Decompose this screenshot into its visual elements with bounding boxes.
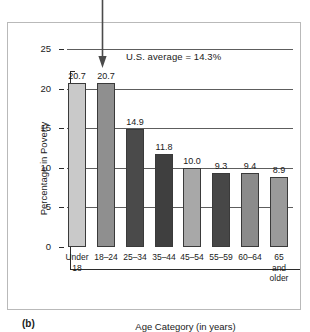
x-axis-category-label: Under 18 [61,252,93,273]
x-axis-category-label: 55–59 [205,252,237,263]
y-axis-tick [59,247,64,248]
bar [270,177,288,247]
bar [68,83,86,247]
x-axis-category-label: 25–34 [119,252,151,263]
bar-value-label: 9.3 [207,161,235,171]
bar-value-label: 14.9 [121,117,149,127]
bar [126,129,144,247]
y-axis-tick-label: 25 [21,43,51,54]
y-axis-tick-label: 5 [21,201,51,212]
bar-value-label: 20.7 [63,71,91,81]
y-axis-tick [59,128,64,129]
x-axis-category-label: 65 and older [263,252,295,284]
gridline [67,49,293,50]
y-axis-tick [59,89,64,90]
x-axis-title: Age Category (in years) [70,321,301,332]
x-axis-category-label: 45–54 [176,252,208,263]
bar [97,83,115,247]
x-axis-category-label: 18–24 [90,252,122,263]
y-axis-tick [59,168,64,169]
y-axis-tick-label: 20 [21,83,51,94]
y-axis-tick-label: 15 [21,122,51,133]
bar [212,173,230,247]
bar-value-label: 10.0 [178,156,206,166]
bar-value-label: 11.8 [150,142,178,152]
y-axis-tick-label: 0 [21,241,51,252]
bar [241,173,259,247]
us-average-annotation: U.S. average = 14.3% [126,51,221,62]
y-axis-tick [59,49,64,50]
figure-frame: U.S. average = 14.3% Percentage in Pover… [7,22,301,310]
y-axis-tick-label: 10 [21,162,51,173]
bar [183,168,201,247]
bar-value-label: 9.4 [236,161,264,171]
bar-value-label: 8.9 [265,165,293,175]
bar-value-label: 20.7 [92,71,120,81]
x-axis-category-label: 60–64 [234,252,266,263]
bar [155,154,173,247]
y-axis-tick [59,207,64,208]
panel-letter: (b) [22,318,35,329]
